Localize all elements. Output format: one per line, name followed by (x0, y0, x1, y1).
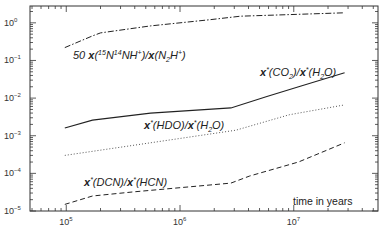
x-axis-tick-labels: 105106107 (59, 216, 301, 227)
y-tick-label: 10−4 (4, 167, 22, 178)
y-axis-tick-labels: 10010−110−210−310−410−5 (4, 17, 22, 216)
plot-frame (30, 6, 378, 211)
y-tick-label: 100 (4, 17, 18, 28)
y-tick-label: 10−2 (4, 92, 22, 103)
y-tick-label: 10−1 (4, 54, 22, 65)
y-tick-label: 10−3 (4, 130, 22, 141)
y-tick-label: 10−5 (4, 205, 22, 216)
annotation-dcn-ratio: x*(DCN)/x*(HCN) (83, 176, 167, 188)
series-line-0 (65, 13, 345, 48)
x-tick-label: 107 (287, 216, 301, 227)
annotation-hdo-ratio: x*(HDO)/x*(H2O) (143, 119, 225, 133)
x-tick-label: 106 (173, 216, 187, 227)
annotation-n15-ratio: 50 x(15N14NH+)/x(N2H+) (73, 49, 186, 63)
x-axis-label: time in years (293, 195, 353, 207)
annotation-co2-ratio: x*(CO2)/x*(H2O) (259, 66, 337, 80)
chart: 105106107 10010−110−210−310−410−5 50 x(1… (0, 0, 385, 232)
y-axis-ticks (30, 11, 378, 211)
x-tick-label: 105 (59, 216, 73, 227)
